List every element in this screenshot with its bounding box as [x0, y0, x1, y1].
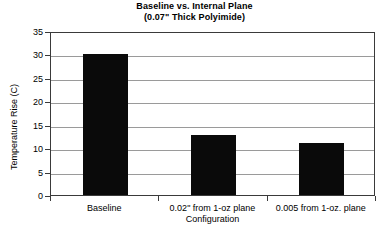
plot-area: [50, 32, 375, 196]
y-tick-label: 0: [3, 192, 43, 201]
x-tick-label: 0.02" from 1-oz plane: [158, 203, 266, 213]
chart-title-line2: (0.07" Thick Polyimide): [0, 12, 389, 23]
x-tick-mark: [158, 196, 159, 201]
bar-chart: Baseline vs. Internal Plane (0.07" Thick…: [0, 0, 389, 235]
bar: [83, 54, 128, 195]
y-tick-label: 30: [3, 51, 43, 60]
bar: [299, 143, 344, 195]
y-tick-label: 5: [3, 169, 43, 178]
chart-title: Baseline vs. Internal Plane (0.07" Thick…: [0, 1, 389, 23]
bar: [191, 135, 236, 195]
x-tick-mark: [375, 196, 376, 201]
x-tick-label: 0.005 from 1-oz. plane: [267, 203, 375, 213]
bars-group: [51, 33, 374, 195]
y-tick-label: 15: [3, 122, 43, 131]
chart-title-line1: Baseline vs. Internal Plane: [136, 1, 252, 11]
x-tick-mark: [50, 196, 51, 201]
y-tick-label: 25: [3, 75, 43, 84]
y-tick-label: 20: [3, 98, 43, 107]
x-tick-label: Baseline: [50, 203, 158, 213]
y-tick-label: 35: [3, 28, 43, 37]
x-axis-title: Configuration: [50, 214, 375, 224]
y-tick-label: 10: [3, 145, 43, 154]
x-tick-mark: [267, 196, 268, 201]
